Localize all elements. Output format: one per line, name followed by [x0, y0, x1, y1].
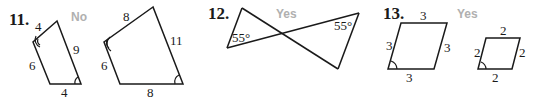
side-label-left: 6: [29, 58, 36, 73]
side-label-left: 2: [474, 45, 481, 60]
angle-mark: [391, 61, 397, 69]
side-label-right: 11: [170, 33, 183, 48]
side-label-top: 4: [35, 19, 42, 34]
problem-number: 13.: [383, 4, 404, 23]
side-label-right: 3: [444, 40, 451, 55]
problem-number: 12.: [208, 4, 229, 23]
side-label-top: 2: [500, 23, 507, 38]
angle-mark-double-inner: [38, 39, 40, 45]
side-label-right: 9: [73, 42, 80, 57]
angle-mark: [481, 62, 486, 69]
problem-12: 12. Yes 55° 55°: [208, 4, 359, 69]
problem-11: 11. No 4 9 4 6 8 11 8 6: [9, 7, 183, 100]
answer-text: Yes: [457, 7, 478, 21]
angle-label-left: 55°: [232, 30, 250, 45]
angle-mark-single: [175, 75, 179, 84]
side-label-bottom: 4: [61, 85, 68, 100]
angle-mark-single: [75, 77, 78, 84]
side-label-left: 3: [386, 38, 393, 53]
answer-text: No: [71, 10, 87, 24]
quadrilateral-small: 4 9 4 6: [29, 19, 81, 100]
side-label-left: 6: [101, 58, 108, 73]
rhombus-outline: [388, 23, 447, 69]
side-label-top: 8: [123, 9, 130, 24]
rhombus-small: 2 2 2 2: [474, 23, 526, 85]
side-label-bottom: 2: [492, 70, 499, 85]
side-label-bottom: 8: [147, 85, 154, 100]
side-label-top: 3: [420, 8, 427, 23]
problem-13: 13. Yes 3 3 3 3 2 2 2 2: [383, 4, 526, 85]
angle-label-right: 55°: [334, 18, 352, 33]
problem-number: 11.: [9, 10, 29, 29]
side-label-bottom: 3: [406, 70, 413, 85]
answer-text: Yes: [276, 7, 297, 21]
side-label-right: 2: [519, 45, 526, 60]
quadrilateral-large: 8 11 8 6: [101, 7, 183, 100]
